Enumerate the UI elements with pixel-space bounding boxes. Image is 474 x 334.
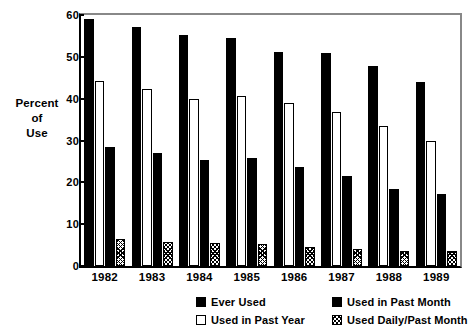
- bar-group: [321, 15, 362, 266]
- bar: [437, 194, 447, 266]
- bar-group: [179, 15, 220, 266]
- bar: [295, 167, 305, 266]
- y-axis-tick-mark: [79, 265, 84, 267]
- bar: [426, 141, 436, 266]
- bar: [353, 249, 363, 266]
- x-axis-tick-label: 1988: [376, 271, 402, 283]
- y-axis-tick-mark: [79, 14, 84, 16]
- bar: [116, 239, 126, 266]
- y-axis-tick-labels: 0102030405060: [39, 13, 79, 266]
- x-axis-tick-label: 1985: [234, 271, 260, 283]
- bar: [95, 81, 105, 266]
- y-axis-tick-label: 10: [45, 218, 79, 230]
- x-axis-tick-label: 1986: [281, 271, 307, 283]
- y-axis-tick-label: 20: [45, 176, 79, 188]
- bar-chart: Percent of Use 0102030405060 19821983198…: [0, 0, 474, 334]
- legend-item: Used Daily/Past Month: [332, 314, 468, 326]
- bar: [200, 160, 210, 266]
- y-axis-tick-mark: [79, 181, 84, 183]
- bar: [321, 53, 331, 266]
- y-axis-tick-label: 30: [45, 135, 79, 147]
- bar: [237, 96, 247, 266]
- y-axis-tick-mark: [79, 223, 84, 225]
- bar: [332, 112, 342, 266]
- bar: [389, 189, 399, 266]
- legend-item: Used in Past Year: [196, 314, 332, 326]
- legend-item-label: Used in Past Year: [211, 314, 305, 326]
- y-axis-tick-mark: [79, 140, 84, 142]
- y-axis-tick-mark: [79, 98, 84, 100]
- bar-group: [132, 15, 173, 266]
- bar-group: [84, 15, 125, 266]
- outline-swatch: [196, 315, 206, 325]
- bar: [153, 153, 163, 266]
- y-axis-tick-label: 40: [45, 93, 79, 105]
- bar: [105, 147, 115, 266]
- solid-swatch: [196, 297, 206, 307]
- x-axis-tick-label: 1989: [423, 271, 449, 283]
- legend-item-label: Used in Past Month: [347, 296, 451, 308]
- bar: [84, 19, 94, 266]
- bar: [226, 38, 236, 266]
- bar: [284, 103, 294, 266]
- bar: [342, 176, 352, 266]
- x-axis-tick-label: 1983: [139, 271, 165, 283]
- bar: [189, 99, 199, 266]
- bar: [258, 244, 268, 266]
- bar: [179, 35, 189, 266]
- bar-group: [368, 15, 409, 266]
- bars-layer: [81, 15, 460, 266]
- solid-swatch: [332, 297, 342, 307]
- bar: [400, 251, 410, 266]
- legend-item: Used in Past Month: [332, 296, 468, 308]
- x-axis-tick-label: 1982: [91, 271, 117, 283]
- bar: [368, 66, 378, 266]
- legend-item-label: Used Daily/Past Month: [347, 314, 468, 326]
- bar: [163, 242, 173, 266]
- bar: [210, 243, 220, 266]
- bar: [247, 158, 257, 266]
- bar: [416, 82, 426, 266]
- legend-item: Ever Used: [196, 296, 332, 308]
- chart-legend: Ever UsedUsed in Past MonthUsed in Past …: [196, 293, 468, 329]
- hatch-swatch: [332, 315, 342, 325]
- bar-group: [274, 15, 315, 266]
- y-axis-tick-label: 50: [45, 51, 79, 63]
- y-axis-tick-mark: [79, 56, 84, 58]
- bar: [142, 89, 152, 266]
- x-axis-tick-labels: 19821983198419851986198719881989: [81, 271, 460, 289]
- bar: [132, 27, 142, 266]
- y-axis-tick-label: 60: [45, 9, 79, 21]
- bar-group: [416, 15, 457, 266]
- legend-item-label: Ever Used: [211, 296, 266, 308]
- x-axis-tick-label: 1987: [328, 271, 354, 283]
- bar: [447, 251, 457, 266]
- bar: [305, 247, 315, 266]
- bar: [379, 126, 389, 266]
- y-axis-tick-label: 0: [45, 260, 79, 272]
- bar-group: [226, 15, 267, 266]
- x-axis-tick-label: 1984: [186, 271, 212, 283]
- bar: [274, 52, 284, 266]
